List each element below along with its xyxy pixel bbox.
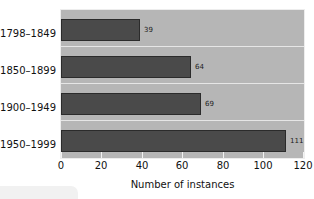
xtick-label-0: 0 [46,160,76,172]
xtick-label-100: 100 [248,160,278,172]
xtick-label-60: 60 [167,160,197,172]
x-tick-80 [223,152,224,158]
category-label-1850-1899: 1850–1899 [0,65,56,77]
value-label-1850-1899: 64 [195,62,204,72]
corner-artifact [0,186,78,199]
bar-1950-1999[interactable] [61,130,286,152]
bar-1850-1899[interactable] [61,56,191,78]
category-label-1950-1999: 1950–1999 [0,139,56,151]
gridline [61,120,304,121]
category-label-1900-1949: 1900–1949 [0,102,56,114]
xtick-label-120: 120 [288,160,314,172]
x-tick-100 [263,152,264,158]
bar-chart-figure: 39 64 69 111 1798–1849 1850–1899 1900–19… [0,0,314,199]
bar-1798-1849[interactable] [61,19,140,41]
value-label-1798-1849: 39 [144,25,153,35]
category-label-1798-1849: 1798–1849 [0,28,56,40]
bar-1900-1949[interactable] [61,93,201,115]
chart-title [0,0,314,8]
x-tick-40 [142,152,143,158]
value-label-1900-1949: 69 [205,99,214,109]
xtick-label-20: 20 [86,160,116,172]
gridline [61,46,304,47]
gridline [61,83,304,84]
value-label-1950-1999: 111 [290,136,303,146]
xtick-label-40: 40 [127,160,157,172]
x-axis-title: Number of instances [60,178,305,191]
x-tick-20 [101,152,102,158]
x-tick-0 [61,152,62,158]
x-tick-120 [303,152,304,158]
xtick-label-80: 80 [208,160,238,172]
x-tick-60 [182,152,183,158]
plot-area: 39 64 69 111 [60,9,305,159]
